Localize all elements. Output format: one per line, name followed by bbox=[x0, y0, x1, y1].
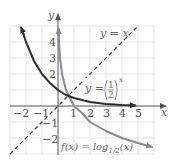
exp-label-prefix: y = bbox=[84, 82, 104, 95]
y-tick-label: 4 bbox=[49, 36, 56, 49]
graph-canvas: x y −2 −1 1 2 3 4 5 4 3 2 −1 −2 y = x y … bbox=[0, 0, 184, 166]
exponential-curve bbox=[22, 30, 136, 106]
y-tick-label: 3 bbox=[49, 52, 56, 65]
exp-curve-arrow bbox=[21, 27, 24, 35]
grid bbox=[10, 26, 154, 154]
exponential-label: y = 1 2 x bbox=[84, 76, 123, 100]
exp-label-denominator: 2 bbox=[108, 90, 114, 100]
identity-label: y = x bbox=[99, 27, 129, 40]
x-axis-label: x bbox=[161, 106, 168, 119]
x-tick-label: 5 bbox=[135, 107, 142, 120]
y-tick-label: 2 bbox=[49, 68, 56, 81]
exp-label-power: x bbox=[119, 76, 123, 84]
x-tick-label: 3 bbox=[103, 107, 110, 120]
y-axis-label: y bbox=[47, 9, 55, 22]
y-tick-label: −2 bbox=[42, 133, 58, 146]
y-tick-labels: 4 3 2 −1 −2 bbox=[42, 36, 58, 146]
x-tick-label: 2 bbox=[87, 107, 94, 120]
exp-label-numerator: 1 bbox=[108, 80, 114, 90]
x-tick-label: 4 bbox=[119, 107, 126, 120]
x-tick-label: −2 bbox=[13, 107, 29, 120]
